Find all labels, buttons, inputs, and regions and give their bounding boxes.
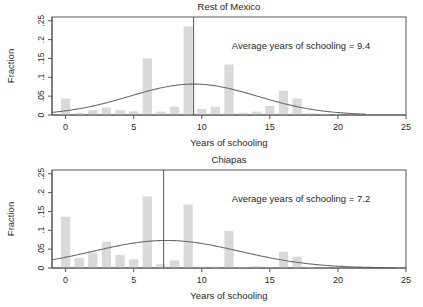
y-axis-title: Fraction — [5, 202, 16, 236]
bar-6y — [143, 58, 152, 115]
x-tick-label-0: 0 — [63, 275, 68, 285]
average-annotation: Average years of schooling = 7.2 — [232, 193, 370, 204]
x-axis-title: Years of schooling — [190, 290, 267, 301]
x-tick-label-0: 0 — [63, 122, 68, 132]
y-tick-label-3: .15 — [36, 52, 46, 64]
bar-7y — [156, 112, 165, 115]
x-tick-label-20: 20 — [333, 275, 343, 285]
y-tick-label-1: .05 — [36, 90, 46, 102]
bar-series — [61, 196, 343, 268]
chart-svg-chiapas: Chiapas05101520250.05.1.15.2.25FractionY… — [0, 153, 423, 306]
density-curve — [52, 84, 365, 114]
y-tick-label-3: .15 — [36, 205, 46, 217]
bar-0y — [61, 217, 70, 268]
bar-4y — [115, 255, 124, 268]
y-tick-label-0: 0 — [36, 112, 46, 117]
bar-15y — [265, 106, 274, 115]
x-axis-title: Years of schooling — [190, 137, 267, 148]
x-tick-label-25: 25 — [401, 122, 411, 132]
bar-0y — [61, 98, 70, 115]
x-tick-label-10: 10 — [197, 122, 207, 132]
y-tick-label-1: .05 — [36, 243, 46, 255]
y-axis-title: Fraction — [5, 49, 16, 83]
y-tick-label-2: .1 — [36, 73, 46, 80]
bar-9y — [184, 205, 193, 268]
y-tick-label-5: .25 — [36, 168, 46, 180]
x-tick-label-20: 20 — [333, 122, 343, 132]
bar-2y — [88, 110, 97, 115]
y-tick-label-2: .1 — [36, 226, 46, 233]
bar-8y — [170, 260, 179, 268]
bar-10y — [197, 109, 206, 115]
bar-11y — [211, 107, 220, 115]
x-tick-label-15: 15 — [265, 122, 275, 132]
figure-container: Rest of Mexico05101520250.05.1.15.2.25Fr… — [0, 0, 423, 307]
bar-9y — [184, 26, 193, 115]
bar-14y — [252, 112, 261, 115]
panel-title: Chiapas — [212, 154, 247, 165]
x-tick-label-15: 15 — [265, 275, 275, 285]
y-tick-label-4: .2 — [36, 36, 46, 43]
x-tick-label-5: 5 — [131, 122, 136, 132]
bar-4y — [115, 110, 124, 115]
y-tick-label-0: 0 — [36, 265, 46, 270]
bar-1y — [75, 258, 84, 268]
chart-svg-rest-of-mexico: Rest of Mexico05101520250.05.1.15.2.25Fr… — [0, 0, 423, 153]
bar-2y — [88, 253, 97, 268]
bar-5y — [129, 259, 138, 268]
y-tick-label-4: .2 — [36, 189, 46, 196]
bar-7y — [156, 264, 165, 268]
bar-6y — [143, 196, 152, 268]
x-tick-label-25: 25 — [401, 275, 411, 285]
bar-5y — [129, 111, 138, 115]
y-tick-label-5: .25 — [36, 15, 46, 27]
chart-panel-rest-of-mexico: Rest of Mexico05101520250.05.1.15.2.25Fr… — [0, 0, 423, 153]
chart-panel-chiapas: Chiapas05101520250.05.1.15.2.25FractionY… — [0, 153, 423, 306]
bar-8y — [170, 107, 179, 115]
bar-3y — [102, 107, 111, 115]
panel-title: Rest of Mexico — [198, 1, 261, 12]
average-annotation: Average years of schooling = 9.4 — [232, 40, 370, 51]
x-tick-label-10: 10 — [197, 275, 207, 285]
x-tick-label-5: 5 — [131, 275, 136, 285]
bar-3y — [102, 242, 111, 268]
